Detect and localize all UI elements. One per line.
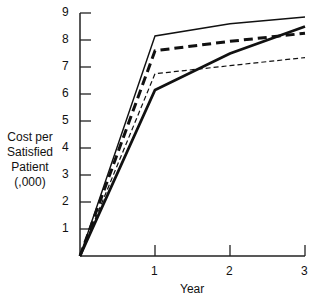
series-line-thin-solid	[80, 17, 305, 256]
line-chart-plot	[0, 0, 316, 298]
series-line-thick-dashed	[80, 33, 305, 256]
